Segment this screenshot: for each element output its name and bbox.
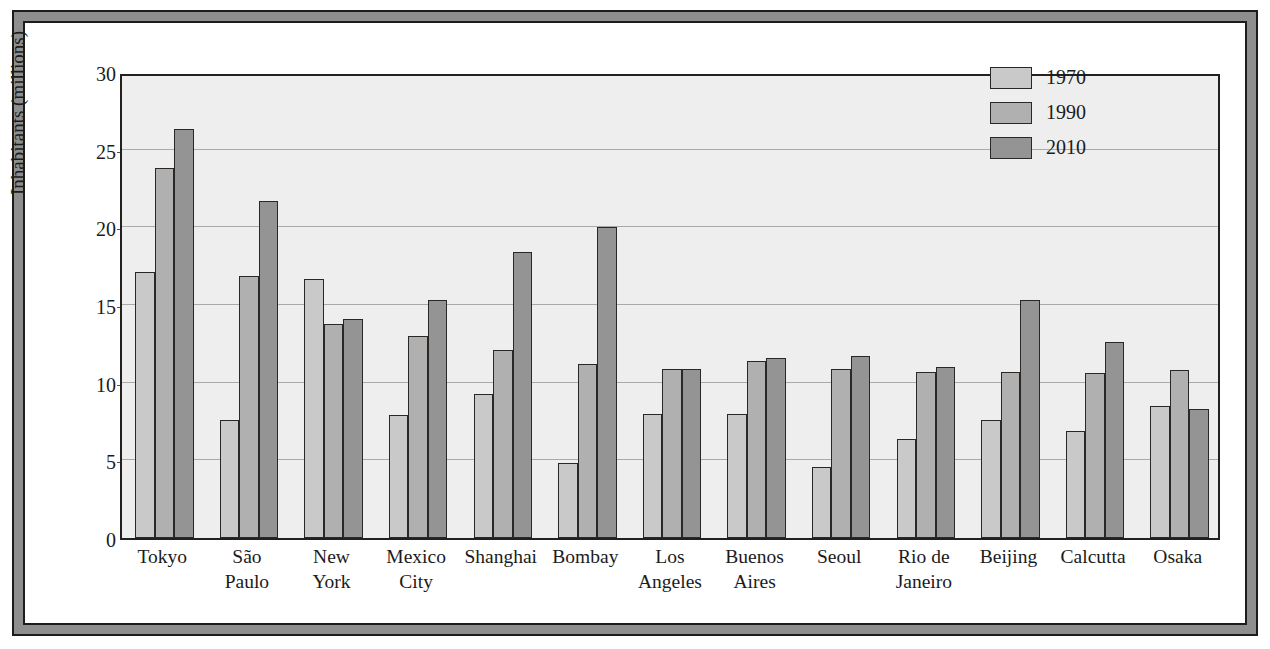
legend-label: 1970 bbox=[1046, 66, 1086, 89]
legend-item: 1970 bbox=[990, 63, 1140, 92]
bar-chart: Inhabitants (millions) 051015202530 Toky… bbox=[25, 23, 1245, 623]
bar bbox=[1189, 409, 1209, 538]
bar bbox=[831, 369, 851, 538]
bar bbox=[662, 369, 682, 538]
y-tick-label: 5 bbox=[70, 451, 116, 474]
y-tick-label: 25 bbox=[70, 140, 116, 163]
y-tick-label: 15 bbox=[70, 296, 116, 319]
bar bbox=[135, 272, 155, 538]
bar bbox=[766, 358, 786, 538]
bar-group bbox=[474, 76, 533, 538]
bar bbox=[1066, 431, 1086, 538]
bar bbox=[1085, 373, 1105, 538]
bar bbox=[1020, 300, 1040, 538]
bar bbox=[493, 350, 513, 538]
figure-outer-frame: Inhabitants (millions) 051015202530 Toky… bbox=[12, 10, 1258, 636]
x-axis-labels: TokyoSãoPauloNewYorkMexicoCityShanghaiBo… bbox=[120, 544, 1220, 614]
bar bbox=[1001, 372, 1021, 538]
bar bbox=[897, 439, 917, 538]
legend-label: 1990 bbox=[1046, 101, 1086, 124]
bar bbox=[324, 324, 344, 538]
bar bbox=[428, 300, 448, 538]
bar bbox=[851, 356, 871, 538]
bar bbox=[304, 279, 324, 538]
bar-group bbox=[389, 76, 448, 538]
bar bbox=[558, 463, 578, 538]
legend-swatch bbox=[990, 67, 1032, 89]
bar bbox=[239, 276, 259, 539]
bar bbox=[155, 168, 175, 538]
bar bbox=[1150, 406, 1170, 538]
bar bbox=[578, 364, 598, 538]
bar-group bbox=[727, 76, 786, 538]
bar bbox=[174, 129, 194, 538]
x-axis-label: Osaka bbox=[1117, 544, 1239, 569]
bar bbox=[343, 319, 363, 538]
bar-group bbox=[812, 76, 871, 538]
bar-group bbox=[897, 76, 956, 538]
legend-label: 2010 bbox=[1046, 136, 1086, 159]
bar bbox=[220, 420, 240, 538]
bar bbox=[259, 201, 279, 538]
bar-group bbox=[1150, 76, 1209, 538]
legend-swatch bbox=[990, 102, 1032, 124]
bar-group bbox=[643, 76, 702, 538]
bar-group bbox=[304, 76, 363, 538]
bar-group bbox=[220, 76, 279, 538]
bar bbox=[682, 369, 702, 538]
bar bbox=[408, 336, 428, 538]
bar bbox=[597, 227, 617, 538]
y-axis-ticks: 051015202530 bbox=[62, 74, 116, 540]
y-axis-title: Inhabitants (millions) bbox=[7, 0, 29, 263]
bar bbox=[727, 414, 747, 538]
legend-item: 2010 bbox=[990, 133, 1140, 162]
bar bbox=[812, 467, 832, 538]
bar bbox=[747, 361, 767, 538]
bar bbox=[981, 420, 1001, 538]
y-tick-label: 30 bbox=[70, 63, 116, 86]
bar bbox=[1105, 342, 1125, 538]
bar bbox=[513, 252, 533, 538]
bar bbox=[389, 415, 409, 538]
bar bbox=[916, 372, 936, 538]
legend-swatch bbox=[990, 137, 1032, 159]
y-tick-label: 10 bbox=[70, 373, 116, 396]
bar bbox=[936, 367, 956, 538]
bar bbox=[643, 414, 663, 538]
legend: 197019902010 bbox=[990, 63, 1140, 168]
bar-group bbox=[135, 76, 194, 538]
figure-page: Inhabitants (millions) 051015202530 Toky… bbox=[23, 21, 1247, 625]
y-tick-label: 20 bbox=[70, 218, 116, 241]
bar-group bbox=[558, 76, 617, 538]
legend-item: 1990 bbox=[990, 98, 1140, 127]
bar bbox=[474, 394, 494, 538]
bar bbox=[1170, 370, 1190, 538]
